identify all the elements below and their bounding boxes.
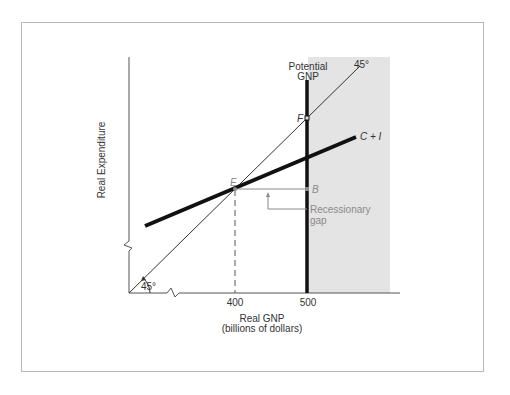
- y-axis: [124, 57, 132, 293]
- x-axis-subtitle: (billions of dollars): [222, 323, 303, 334]
- y-axis-title: Real Expenditure: [96, 121, 107, 198]
- gap-label-2: gap: [310, 215, 327, 226]
- gap-label-1: Recessionary: [310, 204, 371, 215]
- point-b-label: B: [312, 184, 319, 195]
- gap-bracket: [268, 194, 307, 209]
- point-e-label: E: [230, 177, 237, 188]
- gap-arrow-icon: [266, 192, 270, 197]
- shaded-region: [308, 57, 390, 293]
- angle-label: 45°: [141, 281, 156, 292]
- point-f-label: F: [297, 113, 304, 124]
- x-tick-500: 500: [300, 297, 317, 308]
- chart-canvas: Potential GNP 45° F C + I E B Recessiona…: [0, 0, 510, 395]
- x-tick-400: 400: [227, 297, 244, 308]
- line-45-label: 45°: [354, 59, 369, 70]
- point-b-marker: [305, 187, 309, 191]
- ci-label: C + I: [360, 131, 382, 142]
- point-f-marker: [305, 116, 309, 120]
- potential-gnp-label-2: GNP: [297, 71, 319, 82]
